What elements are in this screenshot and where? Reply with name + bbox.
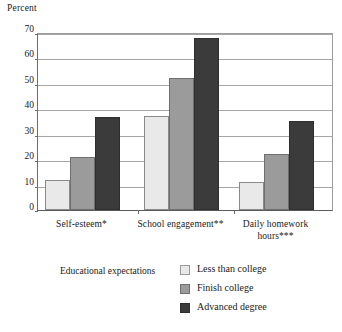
x-category-label-2: Daily homeworkhours*** xyxy=(216,219,336,242)
bar-0-2 xyxy=(95,117,120,210)
gridline-70 xyxy=(38,34,332,35)
y-tick-mark-20 xyxy=(35,161,38,162)
y-tick-label-10: 10 xyxy=(25,182,35,183)
bar-1-2 xyxy=(194,38,219,210)
x-tick-mark-1 xyxy=(234,210,235,214)
legend-swatch-icon-0 xyxy=(180,265,190,275)
y-tick-mark-70 xyxy=(35,34,38,35)
legend-swatch-icon-2 xyxy=(180,303,190,313)
y-tick-label-0: 0 xyxy=(29,207,34,208)
bar-2-2 xyxy=(289,121,314,210)
bar-0-1 xyxy=(70,157,95,210)
y-tick-mark-0 xyxy=(35,211,38,212)
legend-label-2: Advanced degree xyxy=(197,301,267,312)
y-tick-label-20: 20 xyxy=(25,156,35,157)
y-tick-mark-30 xyxy=(35,136,38,137)
plot-area: 010203040506070 xyxy=(37,33,333,211)
bar-1-1 xyxy=(169,78,194,210)
y-tick-mark-10 xyxy=(35,187,38,188)
legend-swatch-icon-1 xyxy=(180,284,190,294)
y-tick-mark-50 xyxy=(35,85,38,86)
bar-0-0 xyxy=(45,180,70,211)
y-tick-mark-40 xyxy=(35,110,38,111)
bar-1-0 xyxy=(144,116,169,210)
y-tick-label-70: 70 xyxy=(25,29,35,30)
x-tick-mark-0 xyxy=(138,210,139,214)
legend-label-0: Less than college xyxy=(197,263,266,274)
x-category-label-line2: hours*** xyxy=(216,231,336,243)
y-axis-title: Percent xyxy=(7,3,37,13)
y-tick-label-40: 40 xyxy=(25,105,35,106)
y-tick-mark-60 xyxy=(35,59,38,60)
y-tick-label-50: 50 xyxy=(25,80,35,81)
bar-2-0 xyxy=(239,182,264,210)
x-category-label-line1: Daily homework xyxy=(216,219,336,231)
y-tick-label-60: 60 xyxy=(25,54,35,55)
gridline-60 xyxy=(38,59,332,60)
bar-2-1 xyxy=(264,154,289,210)
legend-label-1: Finish college xyxy=(197,282,253,293)
y-tick-label-30: 30 xyxy=(25,131,35,132)
chart-legend: Educational expectations Less than colle… xyxy=(60,263,332,325)
legend-title: Educational expectations xyxy=(60,266,155,276)
